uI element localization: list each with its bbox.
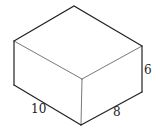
top-back-edges bbox=[14, 6, 142, 46]
top-front-left-edge bbox=[14, 41, 82, 79]
bottom-left-edge bbox=[14, 85, 81, 125]
box-diagram: 10 8 6 bbox=[0, 0, 157, 131]
width-label: 8 bbox=[113, 105, 121, 119]
height-label: 6 bbox=[144, 63, 152, 77]
length-label: 10 bbox=[31, 102, 46, 116]
top-front-right-edge bbox=[82, 46, 142, 79]
bottom-right-edge bbox=[81, 92, 142, 125]
front-vertical-edge bbox=[81, 79, 82, 125]
